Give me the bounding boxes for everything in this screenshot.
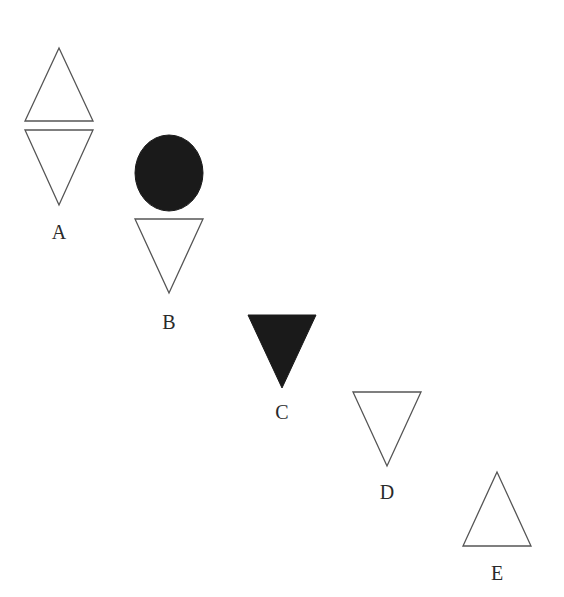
filled-triangle-down-icon <box>248 315 316 388</box>
figure-canvas: A B C D E <box>0 0 564 597</box>
figure-label-d: D <box>380 481 394 503</box>
triangle-down-icon <box>135 219 203 293</box>
shapes-diagram: A B C D E <box>0 0 564 597</box>
figure-label-c: C <box>275 401 288 423</box>
triangle-down-icon <box>25 130 93 205</box>
triangle-down-icon <box>353 392 421 466</box>
figure-b: B <box>135 135 203 333</box>
figure-label-e: E <box>491 562 503 584</box>
figure-a: A <box>25 48 93 243</box>
figure-label-b: B <box>162 311 175 333</box>
figure-d: D <box>353 392 421 503</box>
triangle-up-icon <box>463 472 531 546</box>
triangle-up-icon <box>25 48 93 121</box>
figure-e: E <box>463 472 531 584</box>
filled-circle-icon <box>135 135 203 211</box>
figure-label-a: A <box>52 221 67 243</box>
figure-c: C <box>248 315 316 423</box>
